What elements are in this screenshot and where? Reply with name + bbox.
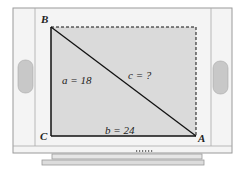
vertex-a-label: A — [198, 132, 205, 144]
vertex-c-label: C — [40, 130, 47, 142]
tv-diagram — [0, 0, 245, 176]
side-b-label: b = 24 — [105, 124, 134, 136]
side-a-label: a = 18 — [62, 74, 91, 86]
tv-stand-base — [42, 160, 204, 165]
vertex-b-label: B — [41, 13, 48, 25]
right-speaker-icon — [213, 61, 228, 94]
left-speaker-icon — [18, 60, 33, 93]
tv-stand-top — [52, 154, 202, 159]
side-c-label: c = ? — [128, 69, 151, 81]
